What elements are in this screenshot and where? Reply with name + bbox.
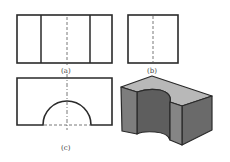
- view-a-outline: [17, 15, 112, 63]
- view-b-label: (b): [147, 67, 157, 75]
- view-a-label: (a): [61, 67, 71, 75]
- solid-right-front-face: [170, 102, 182, 145]
- view-c: (c): [17, 74, 112, 152]
- view-c-outline: [17, 78, 112, 125]
- view-a: (a): [17, 15, 112, 75]
- solid-left-front-face: [121, 87, 137, 134]
- solid-groove-face: [137, 89, 170, 140]
- isometric-solid: [121, 76, 212, 145]
- view-c-label: (c): [61, 144, 71, 152]
- orthographic-drawing: (a) (b) (c): [0, 0, 230, 162]
- view-b: (b): [128, 15, 178, 75]
